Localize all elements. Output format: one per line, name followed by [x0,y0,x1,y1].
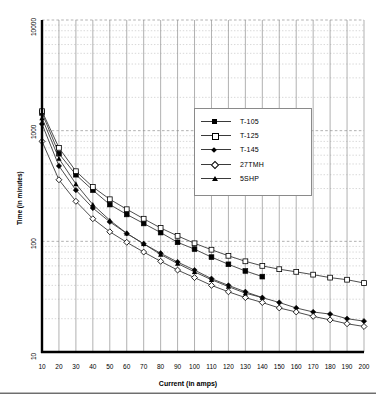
y-tick-label: 10 [30,353,37,360]
data-point [192,241,197,246]
data-point [226,262,231,267]
data-point [209,247,214,252]
y-tick-label: 10000 [30,18,37,36]
legend-label: T-145 [240,146,259,153]
y-tick-label: 1000 [30,124,37,138]
x-axis-title: Current (in amps) [0,380,376,387]
data-point [107,202,112,207]
legend-marker-filled-square-icon [212,119,217,124]
data-point [158,230,163,235]
data-point [107,197,112,202]
data-point [57,145,62,150]
legend-item-27TMH: 27TMH [195,157,311,171]
x-tick-label: 200 [354,363,374,370]
chart-background [0,0,376,401]
data-point [345,277,350,282]
data-point [124,207,129,212]
data-point [192,247,197,252]
data-point [158,226,163,231]
y-axis-title: Time (in minutes) [16,171,23,225]
data-point [141,221,146,226]
data-point [73,169,78,174]
data-point [175,240,180,245]
data-point [175,233,180,238]
chart-legend: T-105T-125T-14527TMH5SHP [194,108,312,196]
data-point [141,216,146,221]
data-point [243,269,248,274]
y-tick-label: 100 [30,238,37,249]
data-point [226,253,231,258]
data-point [260,263,265,268]
legend-item-5SHP: 5SHP [195,172,311,186]
legend-line [201,149,231,150]
legend-label: 5SHP [240,175,259,182]
data-point [124,212,129,217]
chart-canvas [0,0,376,401]
legend-item-T-105: T-105 [195,114,311,128]
data-point [260,274,265,279]
legend-label: T-125 [240,132,259,139]
data-point [243,259,248,264]
legend-line [201,164,231,165]
legend-line [201,178,231,179]
data-point [90,185,95,190]
data-point [294,269,299,274]
legend-label: T-105 [240,118,259,125]
data-point [362,281,367,286]
legend-marker-filled-triangle-icon [212,176,218,181]
data-point [311,272,316,277]
data-point [277,267,282,272]
legend-item-T-145: T-145 [195,143,311,157]
legend-marker-open-square-icon [212,133,219,140]
legend-line [201,121,231,122]
data-point [209,255,214,260]
legend-item-T-125: T-125 [195,128,311,142]
legend-marker-open-diamond-icon [211,161,219,169]
legend-label: 27TMH [240,161,264,168]
data-point [328,275,333,280]
legend-marker-filled-diamond-icon [211,147,217,153]
legend-line [201,135,231,136]
footer-divider [0,392,376,394]
